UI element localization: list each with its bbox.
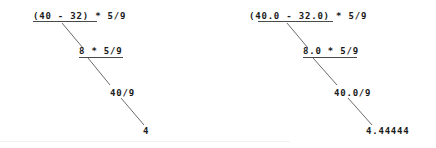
footer-divider bbox=[0, 141, 290, 142]
right-tree-step-3-expression: 40.0/9 bbox=[334, 88, 371, 99]
right-connector-2-to-3 bbox=[313, 58, 337, 85]
right-connector-1-to-2 bbox=[287, 23, 308, 48]
right-tree-result: 4.44444 bbox=[366, 126, 410, 137]
right-connector-3-to-4 bbox=[348, 98, 372, 125]
figure-canvas: (40 - 32) * 5/9 8 * 5/9 40/9 4 (40.0 - 3… bbox=[0, 0, 436, 148]
right-tree-step-2-underline bbox=[303, 57, 357, 58]
right-tree-step-2-expression: 8.0 * 5/9 bbox=[303, 46, 359, 57]
